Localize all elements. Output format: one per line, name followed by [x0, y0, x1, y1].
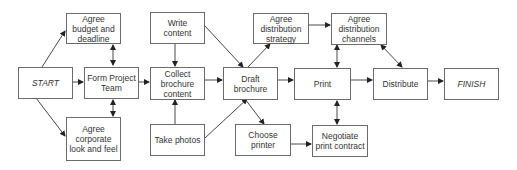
node-agree-strategy-label: Agree distribution strategy: [256, 14, 306, 44]
node-choose-printer-label: Choose printer: [238, 130, 288, 150]
node-agree-strategy: Agree distribution strategy: [253, 13, 309, 44]
node-take-photos-label: Take photos: [155, 135, 201, 145]
edge-draft-printer: [245, 99, 264, 124]
node-negotiate-contract-label: Negotiate print contract: [315, 131, 365, 151]
node-form-team-label: Form Project Team: [87, 73, 136, 93]
node-distribute-label: Distribute: [383, 79, 419, 89]
node-take-photos: Take photos: [150, 124, 205, 156]
edge-channels-distribute: [381, 45, 402, 67]
node-choose-printer: Choose printer: [235, 124, 291, 156]
node-print-label: Print: [314, 79, 331, 89]
node-start-label: START: [32, 78, 59, 88]
node-agree-channels-label: Agree distribution channels: [334, 14, 384, 44]
node-write-content-label: Write content: [153, 18, 202, 38]
node-form-team: Form Project Team: [84, 67, 139, 99]
node-draft-brochure: Draft brochure: [223, 67, 278, 100]
edge-draft-strategy: [248, 44, 270, 67]
node-agree-channels: Agree distribution channels: [331, 13, 387, 45]
node-collect-content: Collect brochure content: [150, 67, 205, 100]
node-agree-budget: Agree budget and deadline: [66, 13, 121, 44]
brochure-project-flowchart: START Agree budget and deadline Agree co…: [0, 0, 517, 170]
node-negotiate-contract: Negotiate print contract: [312, 125, 368, 157]
edge-write-draft: [205, 26, 243, 67]
edge-start-budget: [42, 31, 65, 67]
node-start: START: [18, 67, 73, 99]
node-collect-content-label: Collect brochure content: [153, 69, 202, 99]
node-agree-budget-label: Agree budget and deadline: [69, 14, 118, 44]
node-distribute: Distribute: [373, 68, 428, 100]
node-finish-label: FINISH: [458, 79, 486, 89]
node-write-content: Write content: [150, 12, 205, 44]
node-agree-corporate: Agree corporate look and feel: [66, 117, 121, 161]
edge-start-corporate: [36, 98, 65, 136]
node-agree-corporate-label: Agree corporate look and feel: [69, 124, 118, 154]
node-draft-brochure-label: Draft brochure: [226, 74, 275, 94]
node-print: Print: [294, 68, 351, 100]
node-finish: FINISH: [444, 68, 499, 100]
